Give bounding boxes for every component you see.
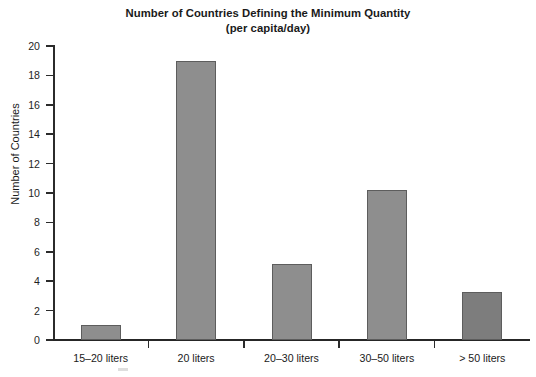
x-axis-tick <box>338 341 340 348</box>
x-axis-tick-label: > 50 liters <box>427 352 536 364</box>
y-axis-tick <box>46 339 53 341</box>
bar <box>81 325 121 340</box>
y-axis-tick-label: 14 <box>0 128 40 140</box>
chart-title-line: Number of Countries Defining the Minimum… <box>126 7 411 19</box>
y-axis-tick <box>46 192 53 194</box>
bar <box>367 190 407 340</box>
y-axis-tick-label: 2 <box>0 305 40 317</box>
y-axis-tick-label: 12 <box>0 158 40 170</box>
y-axis-tick <box>46 251 53 253</box>
bar <box>462 292 502 341</box>
y-axis-tick <box>46 280 53 282</box>
y-axis-tick-label: 8 <box>0 216 40 228</box>
y-axis-tick <box>46 222 53 224</box>
scan-artifact <box>118 368 128 371</box>
y-axis-tick-label: 10 <box>0 187 40 199</box>
bars-layer <box>53 46 530 340</box>
y-axis-tick-label: 16 <box>0 99 40 111</box>
y-axis-tick-label: 20 <box>0 40 40 52</box>
x-axis-tick-label: 20–30 liters <box>237 352 347 364</box>
x-axis-tick-label: 15–20 liters <box>46 352 156 364</box>
page-title: Number of Countries Defining the Minimum… <box>0 6 536 36</box>
bar <box>176 61 216 340</box>
bar <box>272 264 312 340</box>
x-axis-tick-label: 20 liters <box>141 352 251 364</box>
y-axis-tick <box>46 163 53 165</box>
x-axis-tick <box>148 341 150 348</box>
x-axis-tick <box>243 341 245 348</box>
y-axis-tick-label: 18 <box>0 69 40 81</box>
y-axis-tick <box>46 75 53 77</box>
y-axis-tick-label: 6 <box>0 246 40 258</box>
y-axis-tick <box>46 310 53 312</box>
x-axis-tick <box>434 341 436 348</box>
y-axis-tick <box>46 133 53 135</box>
y-axis-tick-label: 4 <box>0 275 40 287</box>
y-axis-tick-label: 0 <box>0 334 40 346</box>
y-axis-tick <box>46 45 53 47</box>
y-axis-tick <box>46 104 53 106</box>
x-axis-tick-label: 30–50 liters <box>332 352 442 364</box>
chart-subtitle-line: (per capita/day) <box>0 21 536 36</box>
